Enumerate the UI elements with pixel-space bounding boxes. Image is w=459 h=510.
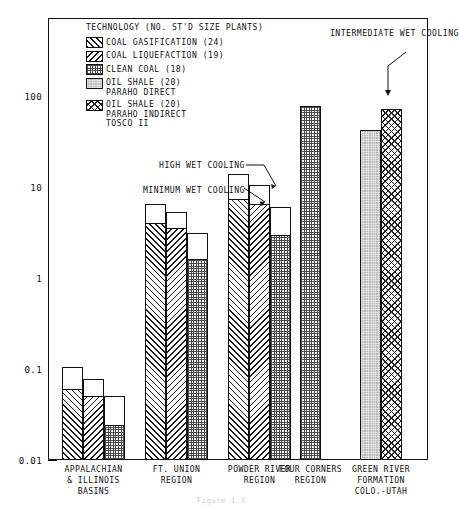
bar-clean-coal-18-four-corners-region	[300, 106, 321, 460]
bar-range-coal-liquefaction-19-appalachian-illinois-basins	[83, 379, 104, 398]
legend-line-3: TOSCO II	[106, 119, 187, 129]
annotation-line-1: INTERMEDIATE	[330, 28, 394, 38]
legend-item-clean-coal: CLEAN COAL (18)	[86, 64, 263, 75]
bar-range-coal-gasification-24-appalachian-illinois-basins	[62, 367, 83, 390]
legend-line-2: PARAHO DIRECT	[106, 88, 181, 98]
legend-label-coal-liquefaction: COAL LIQUEFACTION (19)	[106, 51, 224, 61]
legend-swatch-coal-gasification	[86, 37, 103, 48]
annotation-line-1: MINIMUM	[143, 185, 181, 195]
bar-coal-gasification-24-appalachian-illinois-basins	[62, 389, 83, 460]
legend-label-coal-gasification: COAL GASIFICATION (24)	[106, 37, 224, 47]
legend-line-1: COAL GASIFICATION (24)	[106, 38, 224, 48]
y-tick-label: 100	[0, 91, 42, 102]
legend-label-oil-shale-paraho-indirect: OIL SHALE (20) PARAHO INDIRECT TOSCO II	[106, 100, 187, 129]
y-tick-major	[48, 460, 57, 461]
annotation-high-wet-cooling: HIGH WET COOLING	[159, 160, 245, 170]
bar-oil-shale-20-paraho-direct-green-river-formation-colo-utah	[360, 130, 381, 460]
x-axis-label-green-river: GREEN RIVERFORMATIONCOLO.-UTAH	[331, 464, 431, 497]
figure-caption: Figure 1.3	[0, 496, 442, 505]
legend-label-oil-shale-paraho-direct: OIL SHALE (20) PARAHO DIRECT	[106, 78, 181, 98]
bar-clean-coal-18-ft-union-region	[187, 259, 208, 460]
chart-legend: TECHNOLOGY (NO. ST'D SIZE PLANTS) COAL G…	[86, 22, 263, 131]
legend-item-oil-shale-paraho-direct: OIL SHALE (20) PARAHO DIRECT	[86, 78, 263, 98]
legend-line-1: CLEAN COAL (18)	[106, 65, 187, 75]
bar-range-clean-coal-18-powder-river-region	[270, 207, 291, 235]
annotation-line-1: HIGH WET	[159, 160, 202, 170]
y-tick-label: 0.01	[0, 455, 42, 466]
legend-item-oil-shale-paraho-indirect: OIL SHALE (20) PARAHO INDIRECT TOSCO II	[86, 100, 263, 129]
bar-clean-coal-18-powder-river-region	[270, 235, 291, 460]
legend-label-clean-coal: CLEAN COAL (18)	[106, 64, 187, 74]
annotation-line-2: WET COOLING	[400, 28, 459, 38]
y-tick-label: 10	[0, 182, 42, 193]
y-tick-label: 1	[0, 273, 42, 284]
legend-title: TECHNOLOGY (NO. ST'D SIZE PLANTS)	[86, 22, 263, 32]
bar-range-coal-gasification-24-ft-union-region	[145, 204, 166, 224]
y-tick-label: 0.1	[0, 364, 42, 375]
x-axis-label-line-1: GREEN RIVER	[331, 464, 431, 475]
annotation-line-2: COOLING	[207, 160, 245, 170]
leader-line-intermediate-wet-cooling	[368, 50, 410, 102]
bar-oil-shale-20-paraho-indirect-tosco-ii-green-river-formation-colo-utah	[381, 109, 402, 460]
legend-swatch-oil-shale-paraho-direct	[86, 78, 103, 89]
bar-coal-liquefaction-19-powder-river-region	[249, 204, 270, 460]
legend-item-coal-gasification: COAL GASIFICATION (24)	[86, 37, 263, 48]
legend-line-1: COAL LIQUEFACTION (19)	[106, 51, 224, 61]
bar-range-coal-liquefaction-19-ft-union-region	[166, 212, 187, 229]
x-axis-label-line-2: FORMATION	[331, 475, 431, 486]
annotation-intermediate-wet-cooling: INTERMEDIATE WET COOLING	[330, 28, 438, 38]
annotation-line-2: WET COOLING	[186, 185, 245, 195]
bar-coal-gasification-24-powder-river-region	[228, 199, 249, 460]
bar-range-clean-coal-18-appalachian-illinois-basins	[104, 396, 125, 426]
legend-swatch-oil-shale-paraho-indirect	[86, 100, 103, 111]
legend-swatch-coal-liquefaction	[86, 51, 103, 62]
bar-clean-coal-18-appalachian-illinois-basins	[104, 425, 125, 460]
bar-coal-gasification-24-ft-union-region	[145, 223, 166, 460]
annotation-minimum-wet-cooling: MINIMUM WET COOLING	[142, 185, 245, 195]
leader-line-minimum-wet-cooling	[243, 186, 275, 210]
legend-item-coal-liquefaction: COAL LIQUEFACTION (19)	[86, 51, 263, 62]
bar-range-clean-coal-18-ft-union-region	[187, 233, 208, 260]
legend-swatch-clean-coal	[86, 64, 103, 75]
bar-coal-liquefaction-19-ft-union-region	[166, 228, 187, 460]
bar-coal-liquefaction-19-appalachian-illinois-basins	[83, 396, 104, 460]
